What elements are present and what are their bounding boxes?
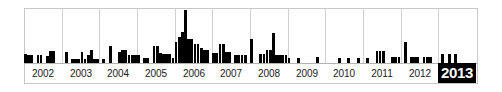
- year-label-2010[interactable]: 2010: [325, 64, 363, 83]
- gridline-2010: [325, 9, 326, 63]
- bar-2005-01[interactable]: [137, 55, 140, 63]
- bar-2002-03[interactable]: [30, 55, 33, 63]
- bar-2012-02[interactable]: [404, 42, 407, 63]
- year-label-2012[interactable]: 2012: [401, 64, 439, 83]
- year-label-2004[interactable]: 2004: [99, 64, 137, 83]
- gridline-2009: [288, 9, 289, 63]
- gridline-2004: [99, 9, 100, 63]
- year-label-2011[interactable]: 2011: [363, 64, 401, 83]
- year-label-2003[interactable]: 2003: [62, 64, 100, 83]
- bar-2002-10[interactable]: [52, 51, 55, 63]
- year-label-2007[interactable]: 2007: [212, 64, 250, 83]
- bar-2011-07[interactable]: [382, 51, 385, 63]
- year-label-2006[interactable]: 2006: [175, 64, 213, 83]
- bar-2007-06[interactable]: [228, 52, 231, 63]
- year-label-2008[interactable]: 2008: [250, 64, 288, 83]
- gridline-2013: [438, 9, 439, 63]
- gridline-2012: [401, 9, 402, 63]
- bar-2013-02[interactable]: [441, 54, 444, 63]
- bar-2013-04[interactable]: [448, 54, 451, 63]
- bar-2004-04[interactable]: [109, 46, 112, 63]
- bar-2013-06[interactable]: [454, 54, 457, 63]
- bar-2007-11[interactable]: [244, 55, 247, 63]
- year-label-2002[interactable]: 2002: [24, 64, 62, 83]
- gridline-2011: [363, 9, 364, 63]
- year-label-2009[interactable]: 2009: [288, 64, 326, 83]
- chart-plot-area[interactable]: [24, 9, 476, 63]
- bar-2002-06[interactable]: [40, 55, 43, 63]
- bar-2003-02[interactable]: [65, 52, 68, 63]
- bar-2006-11[interactable]: [206, 50, 209, 63]
- bar-2008-01[interactable]: [250, 39, 253, 63]
- year-histogram-widget[interactable]: 2002200320042005200620072008200920102011…: [0, 0, 502, 92]
- year-axis-labels[interactable]: 2002200320042005200620072008200920102011…: [24, 64, 478, 83]
- year-label-2013[interactable]: 2013: [438, 63, 476, 83]
- gridline-2003: [62, 9, 63, 63]
- year-label-2005[interactable]: 2005: [137, 64, 175, 83]
